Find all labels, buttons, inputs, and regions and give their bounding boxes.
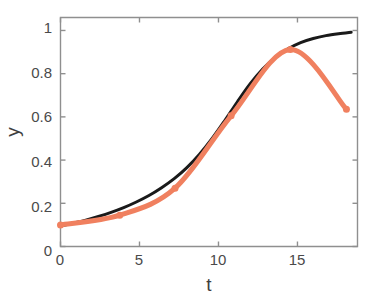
xtick-label-15: 15 [289, 251, 306, 268]
data-point-marker [287, 46, 294, 53]
series-data-line [61, 49, 347, 224]
data-point-marker [172, 185, 179, 192]
axes-frame [61, 18, 358, 247]
ytick-label-1: 1 [22, 19, 52, 36]
series-group [57, 32, 351, 228]
x-axis-title: t [206, 274, 211, 296]
ytick-label-0.4: 0.4 [18, 153, 52, 170]
ytick-label-0.6: 0.6 [18, 108, 52, 125]
data-point-marker [57, 221, 64, 228]
ytick-label-0: 0 [22, 242, 52, 259]
ytick-label-0.8: 0.8 [18, 64, 52, 81]
xtick-label-5: 5 [135, 251, 143, 268]
xtick-label-0: 0 [56, 251, 64, 268]
axis-box-outline [61, 18, 358, 247]
chart-figure: 0 0.2 0.4 0.6 0.8 1 0 5 10 15 y t [0, 0, 378, 304]
data-point-marker [343, 106, 350, 113]
series-data-markers [57, 46, 350, 228]
ytick-label-0.2: 0.2 [18, 198, 52, 215]
xtick-label-10: 10 [210, 251, 227, 268]
data-point-marker [116, 212, 123, 219]
y-axis-title: y [2, 127, 24, 137]
x-axis-ticks [61, 18, 298, 247]
data-point-marker [228, 112, 235, 119]
